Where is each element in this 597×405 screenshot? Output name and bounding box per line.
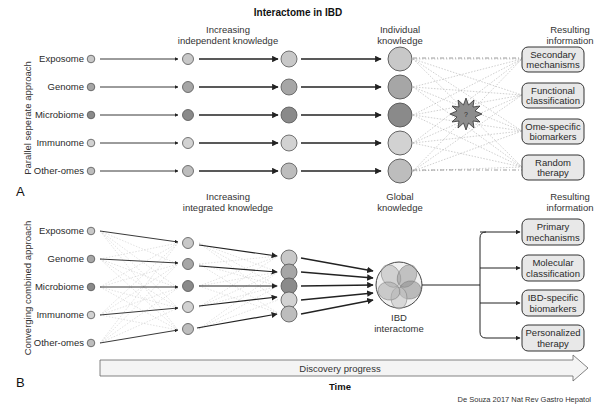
figure-title: Interactome in IBD [254, 7, 342, 18]
interactome-label-1: IBD [391, 312, 407, 323]
ome-label-genome: Genome [48, 81, 84, 92]
panel-b-letter: B [16, 375, 25, 390]
panel-a-arrows-1 [100, 59, 178, 171]
result-b-2-line2: classification [526, 268, 580, 279]
panel-b-mid-nodes [183, 238, 194, 335]
panel-a-side-label: Parallel seperate approach [22, 61, 33, 175]
citation: De Souza 2017 Nat Rev Gastro Hepatol [458, 395, 592, 404]
ome-label-microbiome-b: Microbiome [35, 281, 84, 292]
panel-b-header-result-1: Resulting [550, 191, 590, 202]
panel-a-large-nodes [281, 51, 297, 179]
panel-b-header-right-1: Global [386, 191, 413, 202]
result-b-2-line1: Molecular [532, 257, 573, 268]
time-axis-label: Time [329, 381, 351, 392]
ome-label-microbiome: Microbiome [35, 109, 84, 120]
result-a-2-line2: classification [526, 95, 580, 106]
result-b-1-line2: mechanisms [526, 232, 580, 243]
panel-b-stacked-nodes [281, 250, 297, 322]
result-a-4-line2: therapy [537, 167, 569, 178]
panel-b-header-result-2: information [547, 202, 594, 213]
result-b-4-line2: therapy [537, 338, 569, 349]
ome-label-genome-b: Genome [48, 253, 84, 264]
ome-label-immunome: Immunome [36, 137, 84, 148]
panel-a-header-result-2: information [547, 35, 594, 46]
panel-a-arrows-2 [199, 59, 278, 171]
panel-b-arrows-3 [301, 258, 373, 314]
panel-b-header-mid-2: integrated knowledge [183, 202, 273, 213]
star-question-mark: ? [464, 111, 468, 118]
panel-b-header-right-2: knowledge [377, 202, 422, 213]
panel-b-arrows-1 [100, 231, 178, 343]
discovery-progress-label: Discovery progress [299, 363, 381, 374]
result-a-3-line2: biomarkers [530, 131, 577, 142]
panel-a: A Parallel seperate approach Increasing … [16, 24, 594, 199]
interactome-figure: Interactome in IBD A Parallel seperate a… [0, 0, 597, 405]
panel-b-ome-nodes [87, 227, 95, 347]
result-a-1-line2: mechanisms [526, 59, 580, 70]
panel-a-header-mid-1: Increasing [206, 24, 250, 35]
question-star-icon: ? [450, 98, 482, 130]
result-b-4-line1: Personalized [526, 327, 581, 338]
ome-label-exposome-b: Exposome [39, 225, 84, 236]
panel-a-individual-nodes [388, 47, 412, 183]
result-b-1-line1: Primary [537, 221, 570, 232]
panel-a-header-result-1: Resulting [550, 24, 590, 35]
panel-a-mid-nodes [183, 54, 194, 177]
panel-a-ome-nodes [87, 55, 95, 175]
ome-label-other-omes-b: Other-omes [34, 337, 84, 348]
panel-b-branch-connector [422, 232, 520, 338]
panel-a-header-mid-2: independent knowledge [178, 35, 278, 46]
panel-a-letter: A [16, 184, 25, 199]
result-b-3-line2: biomarkers [530, 303, 577, 314]
ome-label-exposome: Exposome [39, 53, 84, 64]
panel-b-side-label: Converging combined approach [22, 221, 33, 356]
result-b-3-line1: IBD-specific [528, 292, 579, 303]
panel-a-header-right-2: knowledge [377, 35, 422, 46]
ome-label-immunome-b: Immunome [36, 309, 84, 320]
interactome-label-2: interactome [374, 323, 424, 334]
panel-b-header-mid-1: Increasing [206, 191, 250, 202]
panel-a-header-right-1: Individual [380, 24, 420, 35]
panel-a-arrows-3 [301, 59, 381, 171]
ibd-interactome-icon [376, 261, 422, 309]
ome-label-other-omes: Other-omes [34, 165, 84, 176]
